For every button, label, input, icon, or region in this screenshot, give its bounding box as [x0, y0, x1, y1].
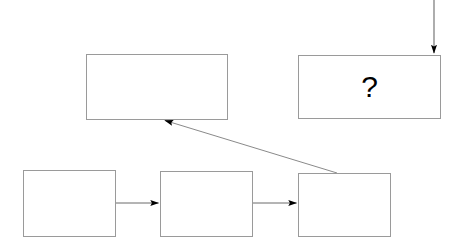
bottom-middle-empty-box-label: [161, 172, 252, 236]
top-left-empty-box[interactable]: [86, 54, 228, 120]
diagram-canvas: ?: [0, 0, 462, 252]
bottom-left-empty-box[interactable]: [23, 170, 116, 237]
bottom-left-empty-box-label: [24, 171, 115, 236]
question-mark-label: ?: [299, 56, 440, 118]
top-left-empty-box-label: [87, 55, 227, 119]
bottom-right-empty-box-label: [299, 174, 390, 236]
question-mark-box[interactable]: ?: [298, 55, 441, 119]
bottom-right-empty-box[interactable]: [298, 173, 391, 237]
bottom-middle-empty-box[interactable]: [160, 171, 253, 237]
arrow-diagonal-to-top-left-box: [165, 121, 337, 174]
